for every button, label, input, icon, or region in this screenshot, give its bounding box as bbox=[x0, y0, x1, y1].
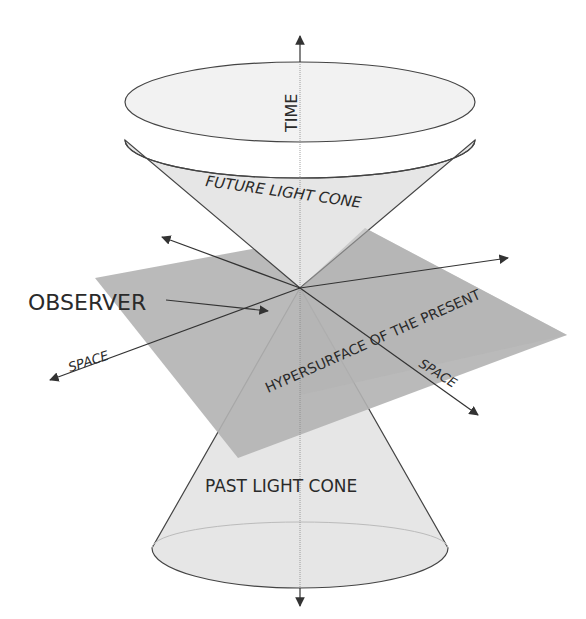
past-light-cone-label: PAST LIGHT CONE bbox=[205, 476, 357, 496]
observer-label: OBSERVER bbox=[28, 290, 146, 315]
diagram-canvas: TIME FUTURE LIGHT CONE OBSERVER SPACE HY… bbox=[0, 0, 586, 619]
light-cone-diagram: TIME FUTURE LIGHT CONE OBSERVER SPACE HY… bbox=[0, 0, 586, 619]
space-left-label: SPACE bbox=[66, 347, 111, 374]
time-label: TIME bbox=[282, 94, 301, 133]
